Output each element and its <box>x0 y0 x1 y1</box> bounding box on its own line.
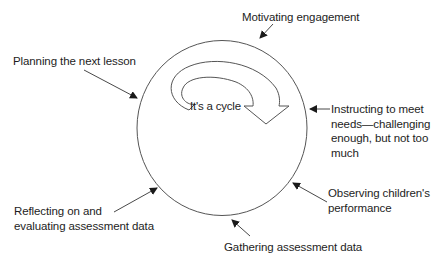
motivating-pointer-arrow <box>260 24 273 38</box>
stage-label-observing-line-2: performance <box>328 201 430 216</box>
stage-label-instructing-line-3: enough, but not too <box>331 131 430 146</box>
stage-label-instructing-line-1: Instructing to meet <box>331 102 430 117</box>
stage-label-observing: Observing children's performance <box>328 186 430 215</box>
stage-label-gathering: Gathering assessment data <box>224 240 362 255</box>
stage-label-instructing-line-4: much <box>331 146 430 161</box>
observing-pointer-arrow <box>293 183 327 202</box>
stage-label-reflecting: Reflecting on and evaluating assessment … <box>14 204 154 233</box>
stage-label-reflecting-line-2: evaluating assessment data <box>14 219 154 234</box>
center-label: It's a cycle <box>190 100 241 112</box>
stage-label-instructing-line-2: needs—challenging <box>331 117 430 132</box>
planning-pointer-arrow <box>84 70 137 98</box>
curved-cycle-arrow-icon <box>171 61 289 124</box>
stage-label-reflecting-line-1: Reflecting on and <box>14 204 154 219</box>
gathering-pointer-arrow <box>232 220 250 236</box>
stage-label-instructing: Instructing to meet needs—challenging en… <box>331 102 430 160</box>
stage-label-planning: Planning the next lesson <box>13 54 136 69</box>
stage-label-motivating: Motivating engagement <box>242 10 359 25</box>
stage-label-observing-line-1: Observing children's <box>328 186 430 201</box>
